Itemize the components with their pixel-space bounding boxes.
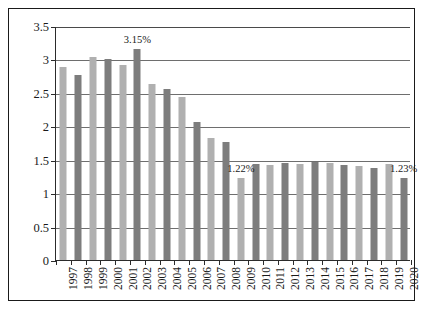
x-axis-tick xyxy=(337,260,338,265)
x-axis-tick xyxy=(234,260,235,265)
x-axis-tick xyxy=(381,260,382,265)
x-axis-label-2010: 2010 xyxy=(260,267,272,290)
x-axis-tick xyxy=(174,260,175,265)
bar-slot xyxy=(71,27,86,260)
y-axis-label: 0 xyxy=(43,254,49,269)
bar[interactable] xyxy=(400,178,407,260)
x-axis-tick xyxy=(115,260,116,265)
y-axis-label: 2 xyxy=(43,120,49,135)
bar-slot xyxy=(367,27,382,260)
bar[interactable] xyxy=(282,163,289,260)
x-axis-label-2002: 2002 xyxy=(141,267,153,290)
bar[interactable] xyxy=(341,165,348,260)
x-axis-tick xyxy=(411,260,412,265)
y-axis-label: 3 xyxy=(43,53,49,68)
plot-area: 3.532.521.510.50 3.15%1.22%1.23% xyxy=(55,27,410,261)
x-axis-label-1997: 1997 xyxy=(67,267,79,290)
x-axis-label-2011: 2011 xyxy=(274,267,286,290)
chart-frame: 3.532.521.510.50 3.15%1.22%1.23% 1997199… xyxy=(8,8,415,301)
bar-slot xyxy=(130,27,145,260)
bar-slot xyxy=(234,27,249,260)
x-axis-tick xyxy=(322,260,323,265)
x-axis-label-2001: 2001 xyxy=(127,267,139,290)
x-axis-tick xyxy=(160,260,161,265)
x-axis-label-2016: 2016 xyxy=(348,267,360,290)
bar-slot xyxy=(56,27,71,260)
bar[interactable] xyxy=(149,84,156,260)
x-axis-tick xyxy=(352,260,353,265)
bars-group xyxy=(56,27,410,260)
x-axis-tick xyxy=(367,260,368,265)
bar-slot xyxy=(100,27,115,260)
bar-slot xyxy=(278,27,293,260)
bar[interactable] xyxy=(193,122,200,260)
bar-slot xyxy=(381,27,396,260)
bar[interactable] xyxy=(311,162,318,260)
x-axis-tick xyxy=(189,260,190,265)
x-axis-label-2019: 2019 xyxy=(393,267,405,290)
bar[interactable] xyxy=(60,67,67,260)
x-axis-label-2015: 2015 xyxy=(334,267,346,290)
x-axis-label-2006: 2006 xyxy=(201,267,213,290)
y-axis-label: 3.5 xyxy=(33,20,49,35)
bar-slot xyxy=(248,27,263,260)
bar-slot xyxy=(352,27,367,260)
x-axis-label-2009: 2009 xyxy=(245,267,257,290)
x-axis-tick xyxy=(396,260,397,265)
bar-slot xyxy=(307,27,322,260)
bar-slot xyxy=(145,27,160,260)
x-axis-label-2004: 2004 xyxy=(171,267,183,290)
bar[interactable] xyxy=(237,178,244,260)
bar-slot xyxy=(86,27,101,260)
x-axis-tick xyxy=(56,260,57,265)
bar[interactable] xyxy=(267,165,274,260)
data-label-2002: 3.15% xyxy=(124,34,151,45)
x-axis-tick xyxy=(278,260,279,265)
bar[interactable] xyxy=(119,65,126,260)
x-axis-label-2008: 2008 xyxy=(230,267,242,290)
x-axis-label-2017: 2017 xyxy=(363,267,375,290)
bar[interactable] xyxy=(89,57,96,260)
bar-slot xyxy=(293,27,308,260)
x-axis-label-2005: 2005 xyxy=(186,267,198,290)
bar[interactable] xyxy=(178,97,185,260)
bar[interactable] xyxy=(326,163,333,260)
x-axis-tick xyxy=(145,260,146,265)
x-axis-tick xyxy=(307,260,308,265)
x-axis-tick xyxy=(204,260,205,265)
bar[interactable] xyxy=(223,142,230,260)
bar[interactable] xyxy=(297,164,304,260)
x-axis-label-2020: 2020 xyxy=(408,267,420,290)
x-axis-label-1999: 1999 xyxy=(97,267,109,290)
bar[interactable] xyxy=(371,168,378,260)
bar[interactable] xyxy=(356,166,363,260)
bar[interactable] xyxy=(385,164,392,260)
x-axis-label-2007: 2007 xyxy=(215,267,227,290)
data-label-2009: 1.22% xyxy=(227,163,254,174)
bar[interactable] xyxy=(252,164,259,260)
bar-slot xyxy=(204,27,219,260)
x-axis-label-2012: 2012 xyxy=(289,267,301,290)
y-axis-label: 1.5 xyxy=(33,153,49,168)
bar-slot xyxy=(263,27,278,260)
x-axis-label-2014: 2014 xyxy=(319,267,331,290)
x-axis-label-2018: 2018 xyxy=(378,267,390,290)
bar[interactable] xyxy=(134,49,141,260)
bar[interactable] xyxy=(75,75,82,260)
x-axis-tick xyxy=(130,260,131,265)
x-axis-tick xyxy=(263,260,264,265)
bar-slot xyxy=(219,27,234,260)
x-axis-tick xyxy=(71,260,72,265)
bar-slot xyxy=(322,27,337,260)
bar[interactable] xyxy=(208,138,215,260)
bar-slot xyxy=(174,27,189,260)
x-axis-tick xyxy=(293,260,294,265)
bar[interactable] xyxy=(104,59,111,260)
x-axis-labels-group: 1997199819992000200120022003200420052006… xyxy=(55,267,410,310)
x-axis-tick xyxy=(100,260,101,265)
y-axis-label: 0.5 xyxy=(33,220,49,235)
x-axis-tick xyxy=(248,260,249,265)
x-axis-label-2003: 2003 xyxy=(156,267,168,290)
bar-slot xyxy=(115,27,130,260)
bar[interactable] xyxy=(163,89,170,260)
